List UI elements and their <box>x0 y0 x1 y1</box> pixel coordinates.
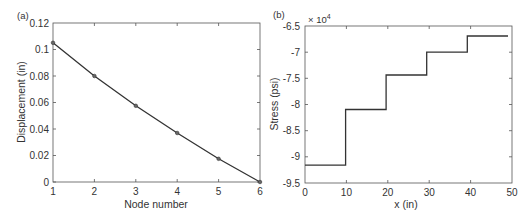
x-axis-a <box>94 23 218 182</box>
x-tick-label: 3 <box>133 186 139 197</box>
figure: (a) 0 0.02 0.04 0.06 0.08 0.1 0.12 <box>0 0 531 218</box>
x-axis-label-a: Node number <box>124 198 188 210</box>
chart-b: (b) × 104 -9.5 -9 -8.5 -8 -7.5 -7 -6.5 <box>268 9 518 210</box>
x-tick-label: 0 <box>302 187 308 198</box>
y-tick-label: 0.06 <box>30 97 50 108</box>
x-tick-label: 4 <box>174 186 180 197</box>
x-axis-b <box>346 26 470 183</box>
x-tick-label: 40 <box>465 187 477 198</box>
y-tick-label: -7 <box>291 47 300 58</box>
x-tick-label: 20 <box>382 187 394 198</box>
panel-b-label: (b) <box>273 9 285 20</box>
y-tick-label: -9.5 <box>283 178 301 189</box>
x-tick-label: 50 <box>506 187 518 198</box>
y-tick-labels-b: -9.5 -9 -8.5 -8 -7.5 -7 -6.5 <box>283 21 301 189</box>
data-point <box>175 131 179 135</box>
y-tick-label: -8 <box>291 99 300 110</box>
y-axis-label-a: Displacement (in) <box>15 61 27 143</box>
y-tick-label: 0.1 <box>35 44 49 55</box>
x-tick-label: 2 <box>92 186 98 197</box>
x-tick-labels-b: 0 10 20 30 40 50 <box>302 187 518 198</box>
panel-a-label: (a) <box>17 10 29 21</box>
plot-area-b <box>305 26 512 183</box>
x-tick-label: 6 <box>257 186 263 197</box>
x-tick-label: 1 <box>50 186 56 197</box>
data-point <box>51 41 55 45</box>
x-axis-label-b: x (in) <box>394 198 417 210</box>
y-tick-label: 0.04 <box>30 124 50 135</box>
y-tick-label: -9 <box>291 151 300 162</box>
y-tick-label: 0.08 <box>30 71 50 82</box>
y-tick-labels-a: 0 0.02 0.04 0.06 0.08 0.1 0.12 <box>30 18 50 188</box>
x-tick-label: 10 <box>341 187 353 198</box>
x-tick-labels-a: 1 2 3 4 5 6 <box>50 186 263 197</box>
data-point <box>134 104 138 108</box>
y-axis-label-b: Stress (psi) <box>268 77 280 130</box>
y-multiplier-exponent: 4 <box>327 13 331 20</box>
y-tick-label: 0.02 <box>30 150 50 161</box>
y-multiplier-base: × 10 <box>308 14 327 25</box>
data-point <box>217 157 221 161</box>
y-tick-label: -6.5 <box>283 21 301 32</box>
data-markers <box>51 41 262 184</box>
plot-area-a <box>53 23 260 182</box>
data-point <box>258 180 262 184</box>
y-tick-label: -8.5 <box>283 125 301 136</box>
x-tick-label: 30 <box>424 187 436 198</box>
y-tick-label: 0.12 <box>30 18 50 29</box>
y-multiplier: × 104 <box>308 13 331 25</box>
y-tick-label: 0 <box>43 177 49 188</box>
displacement-line <box>53 43 260 182</box>
x-tick-label: 5 <box>216 186 222 197</box>
chart-a: (a) 0 0.02 0.04 0.06 0.08 0.1 0.12 <box>15 10 263 210</box>
y-tick-label: -7.5 <box>283 73 301 84</box>
y-axis-a <box>53 50 260 183</box>
data-point <box>93 74 97 78</box>
y-axis-b <box>305 52 512 157</box>
stress-step-line <box>305 36 508 165</box>
